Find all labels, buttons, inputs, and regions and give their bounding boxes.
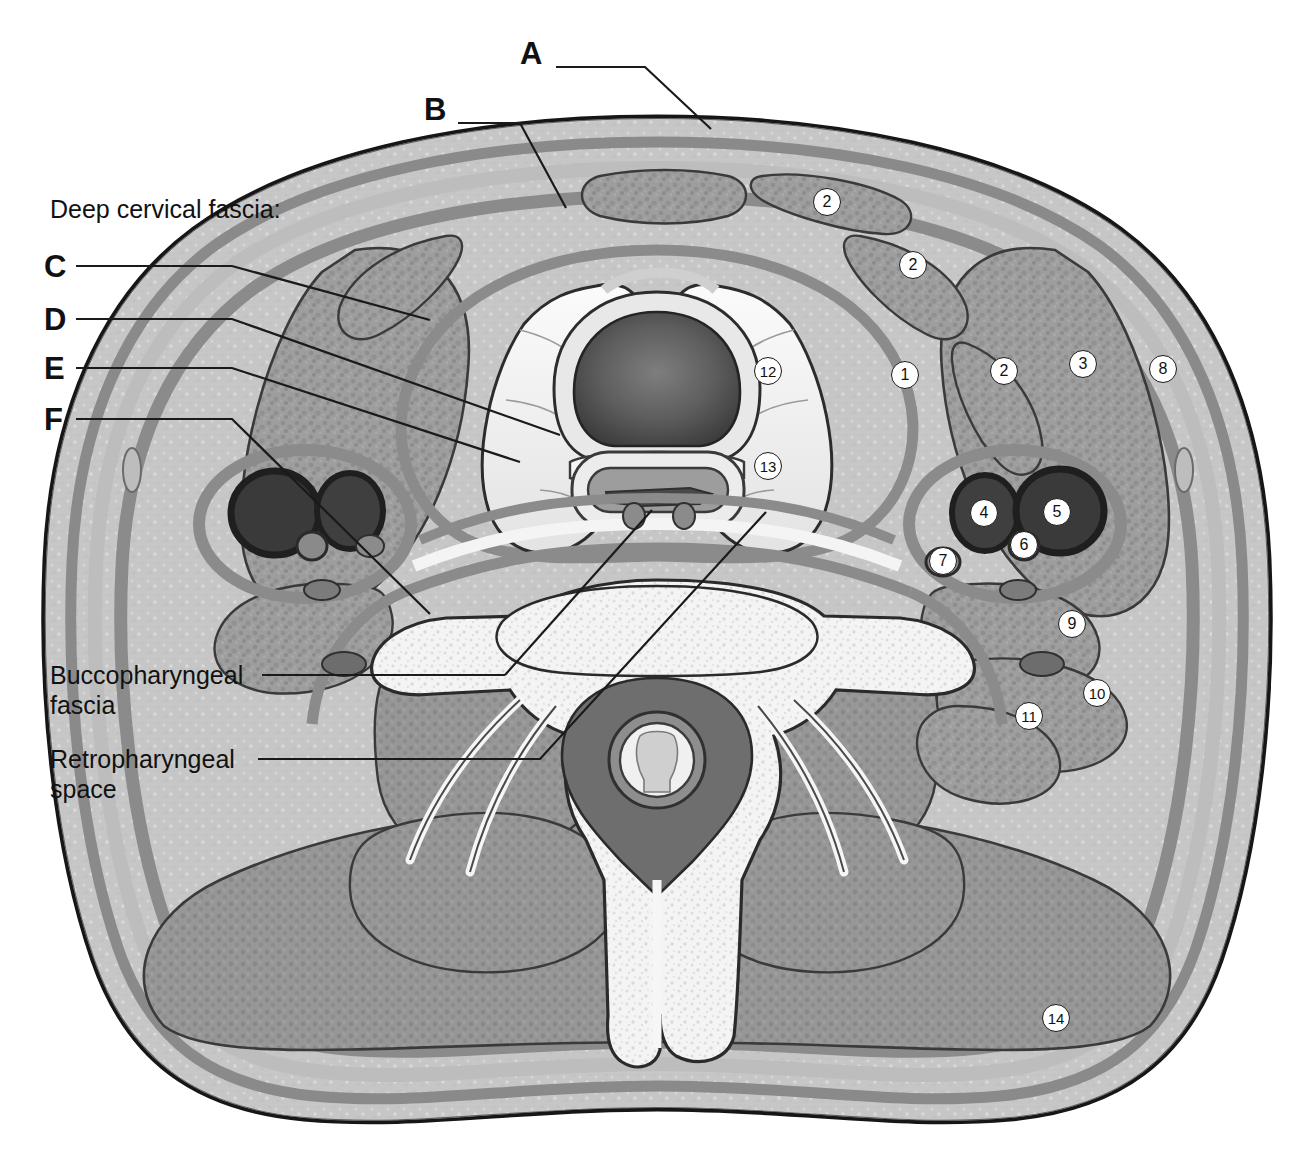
neck-cross-section-illustration (0, 0, 1314, 1175)
paratracheal-node-right (673, 503, 695, 529)
structure-marker-2[interactable]: 2 (813, 188, 841, 216)
vagus-nerve-left (297, 532, 327, 560)
callout-buccopharyngeal-fascia-line2: fascia (50, 690, 115, 720)
callout-buccopharyngeal-fascia-line1: Buccopharyngeal (50, 660, 243, 690)
external-jugular-left (123, 448, 141, 492)
structure-marker-11[interactable]: 11 (1015, 702, 1043, 730)
sternohyoid-left (582, 170, 746, 224)
callout-label-D[interactable]: D (44, 304, 66, 335)
vertebral-vessel-left (304, 580, 340, 600)
callout-retropharyngeal-space-line2: space (50, 774, 117, 804)
figure-canvas: Deep cervical fascia: A B C D E F Buccop… (0, 0, 1314, 1175)
structure-marker-8[interactable]: 8 (1149, 355, 1177, 383)
vertebral-vessel-right (1000, 580, 1036, 600)
small-vessel-right (1020, 652, 1064, 676)
structure-marker-10[interactable]: 10 (1083, 679, 1111, 707)
section-contents (45, 118, 1269, 1121)
structure-marker-12[interactable]: 12 (754, 357, 782, 385)
structure-marker-5[interactable]: 5 (1043, 498, 1071, 526)
callout-label-F[interactable]: F (44, 404, 63, 435)
structure-marker-13[interactable]: 13 (754, 452, 782, 480)
structure-marker-1[interactable]: 1 (891, 361, 919, 389)
structure-marker-6[interactable]: 6 (1010, 531, 1038, 559)
structure-marker-7[interactable]: 7 (929, 547, 957, 575)
callout-label-C[interactable]: C (44, 251, 66, 282)
callout-label-E[interactable]: E (44, 353, 65, 384)
tracheal-lumen (574, 312, 740, 446)
callout-label-A[interactable]: A (520, 38, 542, 69)
structure-marker-2[interactable]: 2 (899, 251, 927, 279)
structure-marker-4[interactable]: 4 (970, 499, 998, 527)
deep-cervical-fascia-heading: Deep cervical fascia: (50, 194, 281, 224)
paratracheal-node-left (623, 503, 645, 529)
structure-marker-2[interactable]: 2 (990, 357, 1018, 385)
external-jugular-right (1175, 448, 1193, 492)
structure-marker-3[interactable]: 3 (1069, 350, 1097, 378)
structure-marker-9[interactable]: 9 (1058, 610, 1086, 638)
small-vessel-left (322, 652, 366, 676)
structure-marker-14[interactable]: 14 (1042, 1004, 1070, 1032)
callout-retropharyngeal-space-line1: Retropharyngeal (50, 744, 235, 774)
callout-label-B[interactable]: B (424, 94, 446, 125)
